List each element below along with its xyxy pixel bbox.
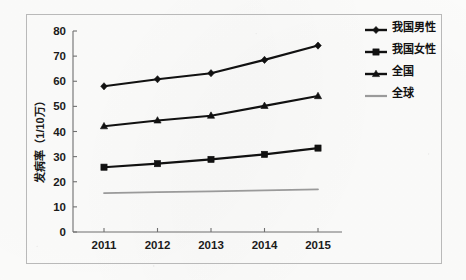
x-axis-tick-label: 2013: [198, 239, 224, 251]
legend-marker-square-icon: [364, 44, 388, 56]
legend-item-label: 我国男性: [392, 22, 436, 34]
data-point-marker-square: [154, 161, 160, 167]
data-point-marker-diamond: [315, 42, 322, 49]
series-line: [104, 96, 318, 126]
y-axis-tick-label: 30: [53, 151, 66, 163]
data-point-marker-diamond: [261, 56, 268, 63]
legend-item[interactable]: 我国女性: [364, 43, 442, 57]
data-series: [104, 189, 318, 193]
legend-marker-none-icon: [364, 88, 388, 100]
x-axis-tick-labels: 20112012201320142015: [92, 239, 332, 251]
x-axis-tick-label: 2014: [252, 239, 278, 251]
legend-item-label: 我国女性: [392, 44, 436, 56]
legend-marker-diamond-icon: [364, 22, 388, 34]
y-axis-tick-label: 40: [53, 126, 66, 138]
series-line: [104, 189, 318, 193]
legend-marker-triangle-icon: [364, 66, 388, 78]
legend-item[interactable]: 全球: [364, 87, 442, 101]
data-point-marker-diamond: [373, 26, 380, 33]
y-axis-tick-label: 10: [53, 201, 66, 213]
data-point-marker-diamond: [154, 76, 161, 83]
legend-item-label: 全球: [392, 88, 414, 100]
y-axis-ticks: [73, 31, 77, 232]
y-axis-tick-label: 70: [53, 50, 66, 62]
chart-page: 01020304050607080 20112012201320142015 发…: [0, 0, 466, 280]
y-axis-tick-label: 80: [53, 25, 66, 37]
x-axis-tick-label: 2015: [305, 239, 331, 251]
series-line: [104, 46, 318, 87]
x-axis-tick-label: 2011: [92, 239, 118, 251]
chart-legend: 我国男性我国女性全国全球: [364, 21, 442, 101]
x-axis-ticks: [104, 228, 318, 232]
legend-item[interactable]: 我国男性: [364, 21, 442, 35]
x-axis-tick-label: 2012: [145, 239, 171, 251]
legend-item-label: 全国: [392, 66, 414, 78]
data-point-marker-square: [208, 156, 214, 162]
data-series: [101, 42, 322, 90]
legend-item[interactable]: 全国: [364, 65, 442, 79]
data-point-marker-diamond: [208, 70, 215, 77]
y-axis-tick-label: 50: [53, 100, 66, 112]
data-series: [101, 145, 321, 170]
data-point-marker-square: [373, 49, 379, 55]
y-axis-title: 发病率（1/10万）: [33, 95, 46, 183]
y-axis-tick-label: 60: [53, 75, 66, 87]
data-point-marker-square: [261, 151, 267, 157]
data-point-marker-square: [315, 145, 321, 151]
y-axis-tick-label: 0: [60, 226, 66, 238]
y-axis-tick-label: 20: [53, 176, 66, 188]
data-point-marker-diamond: [101, 83, 108, 90]
data-series-group: [100, 42, 321, 193]
y-axis-tick-labels: 01020304050607080: [53, 25, 66, 238]
axes: [73, 31, 342, 232]
data-point-marker-square: [101, 164, 107, 170]
data-series: [100, 92, 321, 129]
